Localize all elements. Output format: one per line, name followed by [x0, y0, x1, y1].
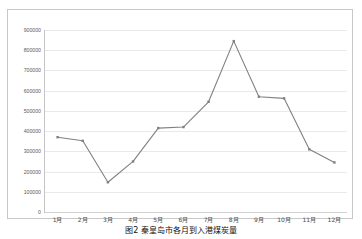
x-tick-label-2: 2月 [70, 214, 96, 225]
x-tick-label-1: 1月 [45, 214, 71, 225]
data-point-7 [207, 101, 209, 103]
figure-container: 9000008000007000006000005000004000003000… [0, 0, 362, 239]
figure-caption: 图2 秦皇岛市各月到入港煤炭量 [0, 225, 362, 237]
series-line [58, 41, 335, 182]
data-point-11 [308, 148, 310, 150]
data-point-6 [182, 126, 184, 128]
y-tick-label-500000: 500000 [8, 108, 41, 114]
x-tick-label-9: 9月 [246, 214, 272, 225]
chart-frame: 9000008000007000006000005000004000003000… [7, 9, 353, 219]
data-point-10 [283, 97, 285, 99]
data-point-5 [157, 127, 159, 129]
x-tick-label-7: 7月 [196, 214, 222, 225]
y-axis-tick-labels: 9000008000007000006000005000004000003000… [8, 30, 41, 212]
line-series [45, 30, 347, 212]
gridline-0 [45, 212, 347, 213]
y-tick-label-400000: 400000 [8, 128, 41, 134]
data-point-8 [233, 40, 235, 42]
x-tick-label-10: 10月 [271, 214, 297, 225]
data-point-2 [82, 140, 84, 142]
x-tick-label-6: 6月 [170, 214, 196, 225]
data-point-3 [107, 181, 109, 183]
y-tick-label-200000: 200000 [8, 169, 41, 175]
y-tick-label-600000: 600000 [8, 88, 41, 94]
x-tick-label-8: 8月 [221, 214, 247, 225]
x-tick-label-3: 3月 [95, 214, 121, 225]
data-point-1 [56, 136, 58, 138]
x-tick-label-11: 11月 [296, 214, 322, 225]
x-tick-label-12: 12月 [321, 214, 347, 225]
y-tick-label-300000: 300000 [8, 148, 41, 154]
data-point-4 [132, 160, 134, 162]
data-point-12 [333, 161, 335, 163]
x-tick-label-5: 5月 [145, 214, 171, 225]
data-point-9 [258, 96, 260, 98]
x-tick-label-4: 4月 [120, 214, 146, 225]
y-tick-label-900000: 900000 [8, 27, 41, 33]
y-tick-label-800000: 800000 [8, 47, 41, 53]
y-tick-label-100000: 100000 [8, 189, 41, 195]
y-tick-label-700000: 700000 [8, 67, 41, 73]
y-tick-label-0: 0 [8, 209, 41, 215]
